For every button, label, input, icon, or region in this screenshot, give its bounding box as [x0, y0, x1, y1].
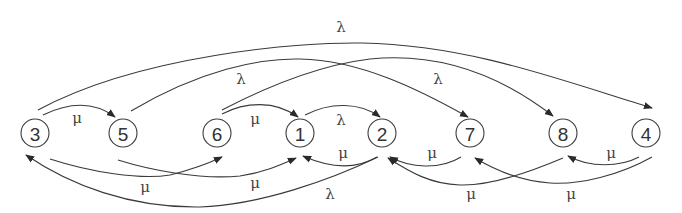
- edge-label-2-1: μ: [338, 144, 348, 162]
- node-1: 1: [286, 119, 314, 147]
- edge-6-to-1: [222, 105, 298, 117]
- svg-text:2: 2: [377, 124, 388, 145]
- edge-4-to-8: [568, 156, 639, 165]
- svg-text:6: 6: [212, 124, 223, 145]
- edge-label-1-2: λ: [336, 111, 346, 129]
- node-8: 8: [549, 119, 577, 147]
- svg-text:1: 1: [295, 124, 306, 145]
- edge-label-3-5: μ: [72, 109, 82, 127]
- edge-label-5-7: λ: [236, 70, 246, 88]
- edge-label-6-8: λ: [433, 70, 443, 88]
- node-4: 4: [632, 119, 660, 147]
- edge-label-3-4: λ: [336, 18, 346, 36]
- svg-text:3: 3: [30, 124, 41, 145]
- svg-text:7: 7: [465, 124, 476, 145]
- svg-text:8: 8: [558, 124, 569, 145]
- edge-label-5-1: μ: [250, 174, 260, 192]
- edge-3-to-6: [50, 157, 222, 177]
- edge-label-8-2: μ: [466, 185, 476, 203]
- edge-3-to-4: [38, 43, 652, 110]
- node-2: 2: [368, 119, 396, 147]
- edge-5-to-7: [131, 59, 468, 117]
- edge-6-to-8: [222, 58, 553, 116]
- edge-label-4-7: μ: [566, 185, 576, 203]
- node-3: 3: [21, 119, 49, 147]
- svg-text:5: 5: [118, 124, 129, 145]
- edge-label-6-1: μ: [250, 110, 260, 128]
- node-5: 5: [109, 119, 137, 147]
- node-7: 7: [456, 119, 484, 147]
- edge-5-to-1: [118, 158, 296, 177]
- edge-label-2-3: λ: [325, 185, 335, 203]
- node-6: 6: [203, 119, 231, 147]
- edge-label-3-6: μ: [140, 178, 150, 196]
- edge-label-7-2: μ: [427, 144, 437, 162]
- state-diagram: 3 5 6 1 2 7 8 4 λ λ λ μ μ λ μ μ μ λ μ μ …: [0, 0, 682, 213]
- edge-7-to-2: [390, 157, 461, 166]
- edge-label-4-8: μ: [606, 144, 616, 162]
- diagram-svg: 3 5 6 1 2 7 8 4 λ λ λ μ μ λ μ μ μ λ μ μ …: [0, 0, 682, 213]
- svg-text:4: 4: [641, 124, 652, 145]
